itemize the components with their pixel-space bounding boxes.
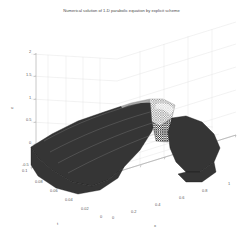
z-axis-label: u: [11, 106, 13, 110]
z-tick-1: 1: [29, 96, 31, 100]
z-tick-1-5: 1.5: [26, 73, 31, 77]
y-tick-0-08: 0.08: [35, 180, 43, 184]
z-tick-0-5: 0.5: [26, 118, 31, 122]
x-tick-1: 1: [228, 182, 230, 186]
y-tick-0: 0: [100, 215, 102, 219]
x-tick-0: 0: [112, 216, 114, 220]
y-tick-0-1: 0.1: [22, 169, 27, 173]
matlab-figure-window: Numerical solution of 1-D parabolic equa…: [0, 0, 243, 242]
z-tick-neg0-5: -0.5: [22, 163, 29, 167]
z-tick-2: 2: [29, 50, 31, 54]
x-axis-label: x: [154, 224, 156, 228]
y-tick-0-06: 0.06: [50, 189, 58, 193]
surface-plot-canvas: [0, 0, 243, 242]
x-tick-0-6: 0.6: [179, 196, 184, 200]
z-tick-0: 0: [29, 141, 31, 145]
x-tick-0-2: 0.2: [131, 210, 136, 214]
x-tick-0-8: 0.8: [202, 189, 207, 193]
y-axis-label: t: [57, 222, 58, 226]
surface-mesh: [31, 98, 220, 194]
y-tick-0-02: 0.02: [81, 207, 89, 211]
y-tick-0-04: 0.04: [65, 198, 73, 202]
x-tick-0-4: 0.4: [155, 203, 160, 207]
